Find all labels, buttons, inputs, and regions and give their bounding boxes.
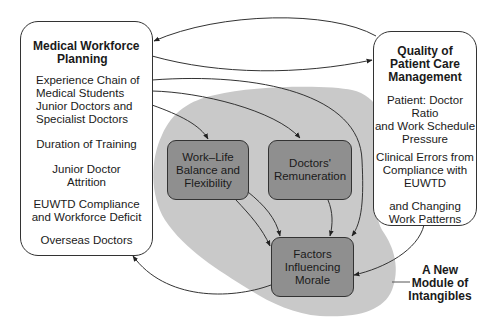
quality-patient-care-box: Quality of Patient Care Management Patie…: [373, 31, 477, 226]
planning-title: Medical Workforce Planning: [21, 40, 152, 66]
planning-item-overseas: Overseas Doctors: [21, 234, 152, 247]
connector-planning-to-quality: [152, 56, 372, 71]
quality-item-ratio: Patient: Doctor Ratio and Work Schedule …: [374, 94, 476, 146]
connector-quality-to-planning: [154, 18, 376, 41]
work-life-balance-node: Work–Life Balance and Flexibility: [167, 140, 249, 200]
factors-influencing-morale-node: Factors Influencing Morale: [271, 237, 354, 297]
quality-item-changing-patterns: and Changing Work Patterns: [374, 200, 476, 226]
planning-item-duration: Duration of Training: [21, 138, 152, 151]
planning-item-euwtd: EUWTD Compliance and Workforce Deficit: [21, 198, 152, 224]
quality-item-clinical-errors: Clinical Errors from Compliance with EUW…: [374, 151, 476, 190]
quality-title: Quality of Patient Care Management: [374, 45, 476, 84]
planning-item-experience-chain: Experience Chain of Medical Students Jun…: [21, 74, 152, 126]
planning-item-attrition: Junior Doctor Attrition: [21, 163, 152, 189]
medical-workforce-planning-box: Medical Workforce Planning Experience Ch…: [20, 21, 153, 256]
doctors-remuneration-node: Doctors' Remuneration: [268, 140, 352, 200]
new-module-of-intangibles-label: A New Module of Intangibles: [408, 264, 472, 303]
